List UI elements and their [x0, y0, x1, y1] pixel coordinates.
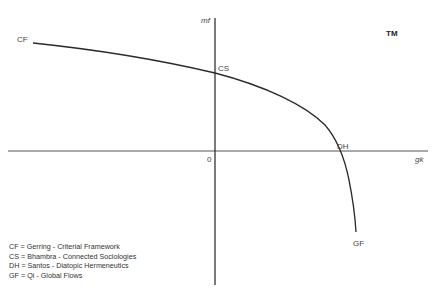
frontier-curve	[33, 43, 356, 232]
diagram-title: TM	[386, 29, 398, 38]
y-axis-label: mf	[201, 16, 211, 25]
origin-label: 0	[207, 155, 212, 164]
point-label-cf: CF	[17, 35, 28, 44]
legend-item-cf: CF = Gerring - Criterial Framework	[9, 242, 136, 252]
point-label-cs: CS	[218, 64, 229, 73]
legend: CF = Gerring - Criterial Framework CS = …	[9, 242, 136, 280]
point-label-dh: DH	[337, 142, 349, 151]
legend-item-dh: DH = Santos - Diatopic Hermeneutics	[9, 261, 136, 271]
legend-item-cs: CS = Bhambra - Connected Sociologies	[9, 252, 136, 262]
x-axis-label: gk	[415, 155, 424, 164]
point-label-gf: GF	[353, 239, 364, 248]
legend-item-gf: GF = Qi - Global Flows	[9, 271, 136, 281]
